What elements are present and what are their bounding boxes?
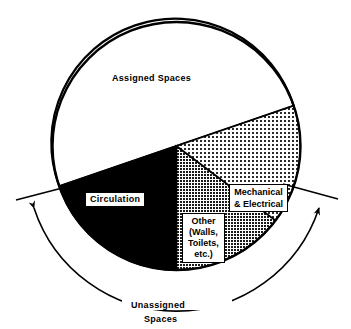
other-label-line-2: (Walls, xyxy=(188,227,219,238)
mechanical-label-line-2: & Electrical xyxy=(234,198,283,210)
slice-label-other: Other (Walls, Toilets, etc.) xyxy=(182,213,225,263)
unassigned-label-line-1: Unassigned xyxy=(131,300,185,310)
other-label-line-4: etc.) xyxy=(188,249,219,260)
slice-label-assigned-spaces: Assigned Spaces xyxy=(112,73,191,83)
slice-label-mechanical-electrical: Mechanical & Electrical xyxy=(229,184,288,212)
other-label-line-3: Toilets, xyxy=(188,238,219,249)
figure-canvas: Assigned Spaces Circulation Mechanical &… xyxy=(0,0,351,329)
other-label-line-1: Other xyxy=(188,216,219,227)
unassigned-label-line-2: Spaces xyxy=(144,314,177,324)
pie-chart-svg xyxy=(0,0,351,329)
mechanical-label-line-1: Mechanical xyxy=(234,186,283,198)
slice-label-circulation: Circulation xyxy=(85,192,145,207)
